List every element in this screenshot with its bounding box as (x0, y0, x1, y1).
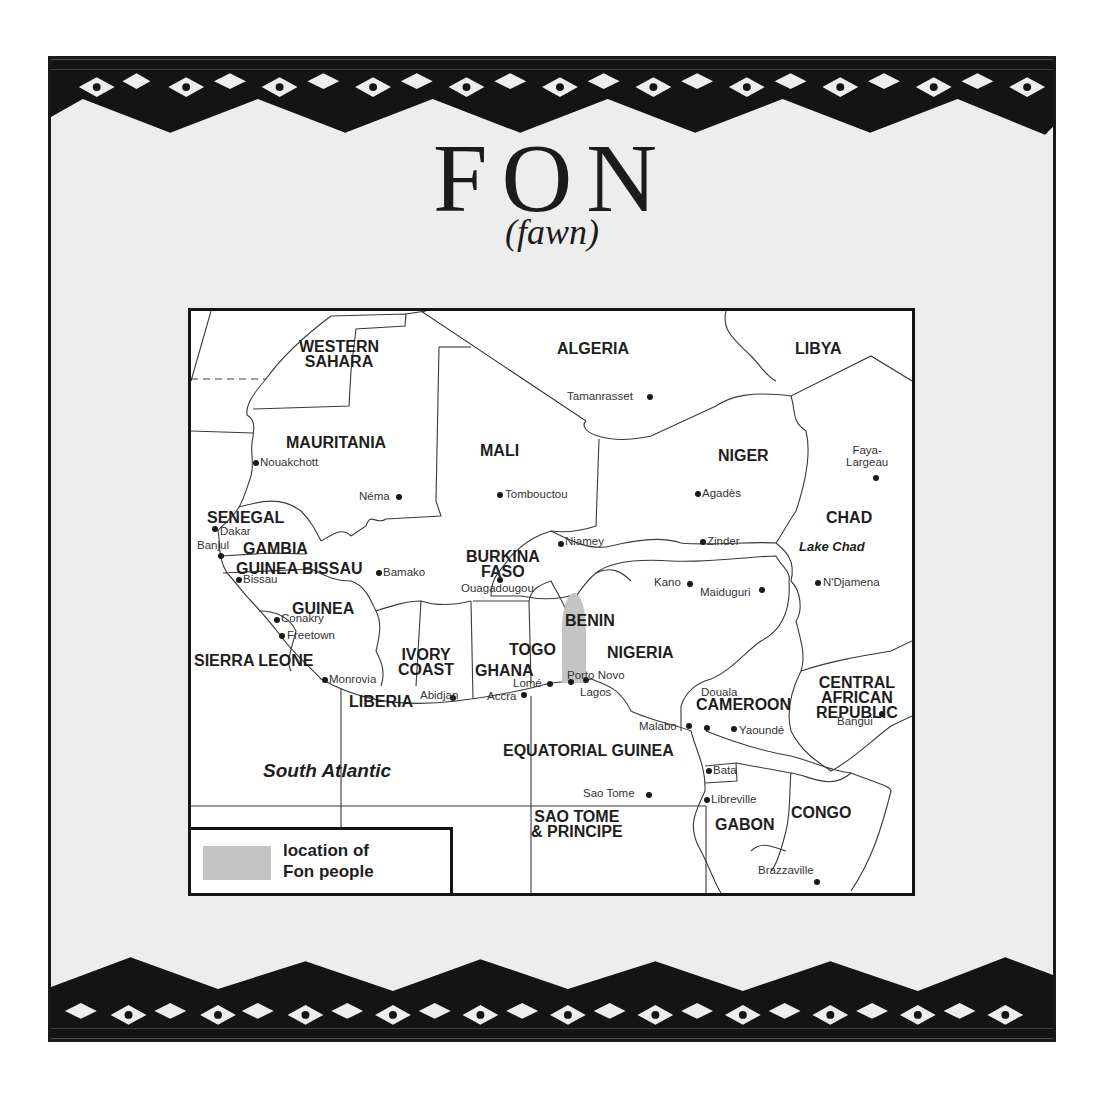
city-label-kano: Kano (654, 577, 681, 589)
city-dot-icon (274, 617, 280, 623)
city-dot-icon (687, 581, 693, 587)
pronunciation-subtitle: (fawn) (51, 211, 1053, 253)
city-dot-icon (212, 526, 218, 532)
city-dot-icon (253, 460, 259, 466)
city-dot-icon (646, 792, 652, 798)
city-dot-icon (706, 768, 712, 774)
city-label-accra: Accra (487, 691, 516, 703)
city-label-tamanrasset: Tamanrasset (567, 391, 633, 403)
city-label-banjul: Banjul (197, 540, 229, 552)
city-label-ouagadougou: Ouagadougou (461, 583, 534, 595)
city-label-monrovia: Monrovia (329, 674, 376, 686)
country-label-burkina-faso: BURKINA FASO (466, 549, 540, 579)
decorative-border-bottom (51, 949, 1053, 1039)
city-label-bamako: Bamako (383, 567, 425, 579)
city-label-maiduguri: Maiduguri (700, 587, 751, 599)
country-label-equatorial-guinea: EQUATORIAL GUINEA (503, 743, 674, 758)
city-label-libreville: Libreville (711, 794, 756, 806)
city-label-porto-novo: Porto Novo (567, 670, 625, 682)
city-label-n-ma: Néma (359, 491, 390, 503)
country-label-congo: CONGO (791, 805, 851, 820)
city-dot-icon (873, 475, 879, 481)
city-dot-icon (814, 879, 820, 885)
city-label-brazzaville: Brazzaville (758, 865, 814, 877)
city-label-conakry: Conakry (281, 613, 324, 625)
water-label-lake-chad: Lake Chad (799, 540, 865, 553)
country-label-ivory-coast: IVORY COAST (398, 647, 454, 677)
city-dot-icon (647, 394, 653, 400)
city-label-yaound: Yaoundé (739, 725, 784, 737)
country-label-cameroon: CAMEROON (696, 697, 791, 712)
city-dot-icon (704, 797, 710, 803)
city-dot-icon (700, 539, 706, 545)
city-label-bata: Bata (713, 765, 737, 777)
country-label-sao-tome-principe: SAO TOME & PRINCIPE (531, 809, 623, 839)
city-dot-icon (547, 681, 553, 687)
city-dot-icon (396, 494, 402, 500)
legend-label: location of Fon people (283, 840, 374, 882)
map-frame: WESTERN SAHARAALGERIALIBYAMAURITANIAMALI… (188, 308, 915, 896)
city-label-agad-s: Agadès (702, 488, 741, 500)
country-label-algeria: ALGERIA (557, 341, 629, 356)
city-dot-icon (558, 541, 564, 547)
city-label-abidjan: Abidjan (420, 690, 458, 702)
city-label-dakar: Dakar (220, 526, 251, 538)
city-dot-icon (815, 580, 821, 586)
country-label-mali: MALI (480, 443, 519, 458)
water-label-south-atlantic: South Atlantic (263, 761, 391, 780)
country-label-niger: NIGER (718, 448, 769, 463)
city-label-nouakchott: Nouakchott (260, 457, 318, 469)
city-label-zinder: Zinder (707, 536, 740, 548)
country-label-liberia: LIBERIA (349, 694, 413, 709)
city-label-tombouctou: Tombouctou (505, 489, 568, 501)
city-dot-icon (686, 723, 692, 729)
country-label-western-sahara: WESTERN SAHARA (299, 339, 379, 369)
country-label-central-african-republic: CENTRAL AFRICAN REPUBLIC (816, 675, 898, 720)
country-label-gambia: GAMBIA (243, 541, 308, 556)
country-label-nigeria: NIGERIA (607, 645, 674, 660)
city-label-malabo: Malabo (639, 721, 677, 733)
country-label-sierra-leone: SIERRA LEONE (194, 653, 313, 668)
city-dot-icon (521, 692, 527, 698)
country-label-ghana: GHANA (475, 663, 534, 678)
city-dot-icon (695, 491, 701, 497)
page-panel: FON (fawn) (48, 56, 1056, 1042)
city-dot-icon (376, 570, 382, 576)
city-label-freetown: Freetown (287, 630, 335, 642)
city-label-sao-tome: Sao Tome (583, 788, 635, 800)
country-label-chad: CHAD (826, 510, 872, 525)
city-dot-icon (322, 677, 328, 683)
city-dot-icon (279, 633, 285, 639)
city-label-bissau: Bissau (243, 574, 278, 586)
city-dot-icon (731, 726, 737, 732)
city-dot-icon (497, 492, 503, 498)
city-label-n-djamena: N'Djamena (823, 577, 880, 589)
city-label-niamey: Niamey (565, 536, 604, 548)
city-label-bangui: Bangui (837, 716, 873, 728)
country-label-libya: LIBYA (795, 341, 842, 356)
country-label-togo: TOGO (509, 642, 556, 657)
map-legend: location of Fon people (191, 827, 453, 893)
country-label-gabon: GABON (715, 817, 775, 832)
city-dot-icon (759, 587, 765, 593)
city-label-lom: Lomé (513, 678, 542, 690)
city-label-douala: Douala (701, 687, 737, 699)
fon-location-swatch (203, 846, 271, 880)
city-label-faya-largeau: Faya- Largeau (846, 445, 888, 468)
city-dot-icon (236, 577, 242, 583)
country-label-mauritania: MAURITANIA (286, 435, 386, 450)
city-dot-icon (704, 725, 710, 731)
country-label-benin: BENIN (565, 613, 615, 628)
city-dot-icon (218, 553, 224, 559)
country-label-senegal: SENEGAL (207, 510, 284, 525)
city-label-lagos: Lagos (580, 687, 611, 699)
